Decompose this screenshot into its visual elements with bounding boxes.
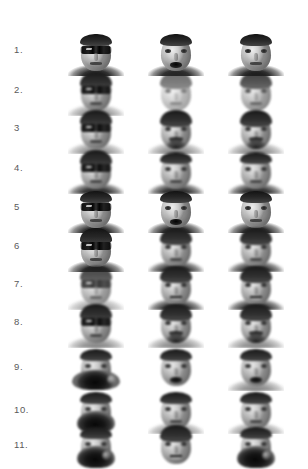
reconstructed-face-11-2 — [148, 423, 204, 469]
row-label-11: 11. — [14, 439, 48, 451]
row-label-8: 8. — [14, 316, 48, 328]
occluded-face-11-1 — [68, 423, 124, 469]
figure-row-9: 9. — [0, 345, 308, 383]
figure-row-4: 4. — [0, 148, 308, 186]
figure-row-7: 7. — [0, 264, 308, 302]
row-label-2: 2. — [14, 84, 48, 96]
figure-row-3: 3 — [0, 108, 308, 146]
matched-face-9-3 — [228, 345, 284, 391]
row-label-9: 9. — [14, 361, 48, 373]
figure-row-8: 8. — [0, 302, 308, 340]
occluded-face-8-1 — [68, 302, 124, 348]
row-label-10: 10. — [14, 404, 48, 416]
figure-row-5: 5 — [0, 187, 308, 225]
row-label-6: 6 — [14, 240, 48, 252]
figure-row-11: 11. — [0, 423, 308, 461]
row-label-3: 3 — [14, 122, 48, 134]
matched-face-11-3 — [228, 423, 284, 469]
row-label-7: 7. — [14, 278, 48, 290]
occluded-face-9-1 — [68, 345, 124, 391]
figure-row-6: 6 — [0, 226, 308, 264]
reconstructed-face-8-2 — [148, 302, 204, 348]
row-label-5: 5 — [14, 201, 48, 213]
row-label-4: 4. — [14, 162, 48, 174]
reconstructed-face-9-2 — [148, 345, 204, 391]
matched-face-8-3 — [228, 302, 284, 348]
row-label-1: 1. — [14, 44, 48, 56]
figure-row-2: 2. — [0, 70, 308, 108]
figure-row-1: 1. — [0, 30, 308, 68]
figure-row-10: 10. — [0, 388, 308, 426]
